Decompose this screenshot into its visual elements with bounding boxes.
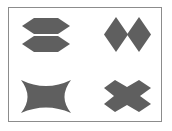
double-diamond-icon — [104, 17, 151, 52]
x-cross-icon — [104, 80, 151, 112]
shapes-canvas — [0, 0, 172, 131]
concave-star-icon — [21, 80, 71, 113]
double-hexagon-icon — [22, 18, 70, 52]
